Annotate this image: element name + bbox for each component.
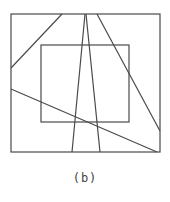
v-right-line <box>86 14 100 152</box>
outer-box <box>11 14 160 152</box>
lower-diagonal <box>11 89 157 152</box>
v-left-line <box>72 14 85 152</box>
top-left-diagonal <box>11 14 62 68</box>
inner-box <box>41 45 129 122</box>
figure-caption: (b) <box>0 171 170 185</box>
diagram-lines <box>11 14 160 152</box>
